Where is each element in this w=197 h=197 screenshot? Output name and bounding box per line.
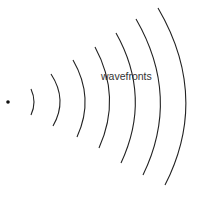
wavefront-diagram (0, 0, 197, 197)
wavefront-arc (136, 19, 160, 175)
wavefront-arc (116, 33, 135, 163)
wavefront-arc (158, 8, 186, 185)
wavefront-arc (51, 74, 60, 126)
wavefront-arc (95, 47, 110, 148)
wavefronts-label: wavefronts (101, 70, 152, 82)
wavefront-arcs (31, 8, 186, 185)
source-point (6, 100, 10, 104)
wavefront-arc (31, 89, 34, 115)
wavefront-arc (73, 60, 85, 137)
